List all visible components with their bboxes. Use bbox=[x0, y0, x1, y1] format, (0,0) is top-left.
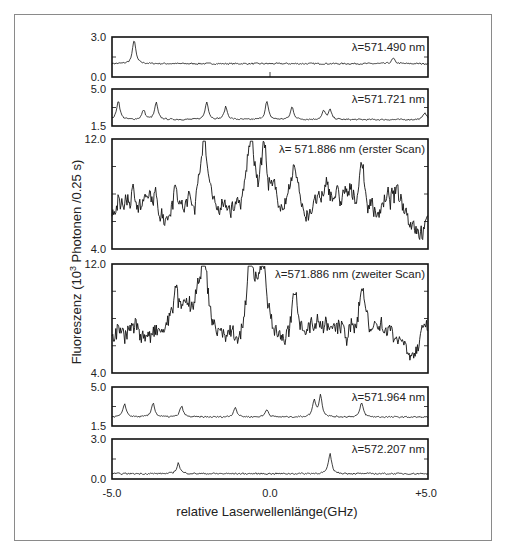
y-axis-title-pre: Fluoreszenz (10 bbox=[69, 271, 84, 364]
y-tick-max: 12.0 bbox=[85, 133, 106, 145]
figure-canvas: 3.00.0λ=571.490 nm5.01.5λ=571.721 nm12.0… bbox=[0, 0, 507, 556]
y-tick-min: 0.0 bbox=[91, 71, 106, 83]
y-axis-title-post: Photonen /0.25 s) bbox=[69, 160, 84, 266]
wavelength-annotation: λ=571.490 nm bbox=[352, 41, 425, 53]
x-axis-title: relative Laserwellenlänge(GHz) bbox=[176, 504, 357, 519]
y-tick-max: 3.0 bbox=[91, 433, 106, 445]
y-axis-title: Fluoreszenz (103 Photonen /0.25 s) bbox=[68, 160, 84, 364]
wavelength-annotation: λ=571.886 nm (zweiter Scan) bbox=[275, 268, 425, 280]
y-tick-min: 4.0 bbox=[91, 367, 106, 379]
y-tick-max: 3.0 bbox=[91, 31, 106, 43]
spectrum-trace bbox=[112, 266, 428, 360]
spectrum-trace bbox=[112, 453, 428, 474]
y-tick-max: 5.0 bbox=[91, 83, 106, 95]
wavelength-annotation: λ=571.964 nm bbox=[352, 391, 425, 403]
panels-group: 3.00.0λ=571.490 nm5.01.5λ=571.721 nm12.0… bbox=[85, 31, 428, 485]
x-tick-label: -5.0 bbox=[103, 487, 122, 499]
y-tick-min: 4.0 bbox=[91, 243, 106, 255]
subplot-panel: 5.01.5λ=571.964 nm bbox=[91, 381, 428, 432]
subplot-panel: 12.04.0λ= 571.886 nm (erster Scan) bbox=[85, 133, 428, 255]
y-tick-max: 5.0 bbox=[91, 381, 106, 393]
subplot-panel: 3.00.0λ=571.490 nm bbox=[91, 31, 428, 83]
spectrum-trace bbox=[112, 141, 428, 239]
subplot-frame bbox=[112, 139, 428, 249]
y-tick-min: 1.5 bbox=[91, 120, 106, 132]
x-tick-label: 0.0 bbox=[262, 487, 277, 499]
subplot-panel: 3.00.0λ=572.207 nm bbox=[91, 433, 428, 485]
wavelength-annotation: λ=571.721 nm bbox=[352, 93, 425, 105]
x-tick-label: +5.0 bbox=[415, 487, 437, 499]
wavelength-annotation: λ= 571.886 nm (erster Scan) bbox=[279, 143, 425, 155]
y-tick-min: 1.5 bbox=[91, 420, 106, 432]
y-tick-min: 0.0 bbox=[91, 473, 106, 485]
subplot-frame bbox=[112, 264, 428, 373]
subplot-panel: 5.01.5λ=571.721 nm bbox=[91, 83, 428, 132]
y-tick-max: 12.0 bbox=[85, 258, 106, 270]
wavelength-annotation: λ=572.207 nm bbox=[352, 443, 425, 455]
subplot-panel: 12.04.0λ=571.886 nm (zweiter Scan) bbox=[85, 258, 428, 379]
